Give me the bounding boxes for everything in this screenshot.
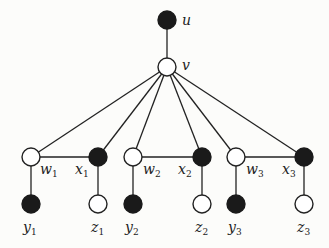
- node-z3: [295, 195, 313, 213]
- label-z1: z1: [90, 219, 104, 237]
- label-sub-w1: 1: [52, 169, 58, 179]
- label-sub-z2: 2: [202, 227, 208, 237]
- node-w2: [124, 148, 142, 166]
- edge-v-w3: [167, 67, 236, 157]
- node-y1: [22, 195, 40, 213]
- label-sub-x2: 2: [186, 169, 192, 179]
- node-x3: [295, 148, 313, 166]
- node-y3: [227, 195, 245, 213]
- label-x3: x3: [282, 161, 296, 179]
- label-x2: x2: [178, 161, 192, 179]
- label-w3: w3: [246, 161, 264, 179]
- node-u: [158, 11, 176, 29]
- label-w2: w2: [143, 161, 161, 179]
- label-sub-y3: 3: [236, 227, 242, 237]
- labels: uvw1x1w2x2w3x3y1z1y2z2y3z3: [22, 12, 310, 237]
- node-w1: [22, 148, 40, 166]
- node-x2: [193, 148, 211, 166]
- label-y3: y3: [227, 219, 242, 237]
- label-sub-z1: 1: [98, 227, 104, 237]
- label-sub-x3: 3: [290, 169, 296, 179]
- label-u: u: [182, 12, 191, 28]
- label-z3: z3: [296, 219, 310, 237]
- edge-v-x3: [167, 67, 304, 157]
- edge-v-x2: [167, 67, 202, 157]
- label-sub-z3: 3: [304, 227, 310, 237]
- label-w1: w1: [40, 161, 58, 179]
- graph-diagram: uvw1x1w2x2w3x3y1z1y2z2y3z3: [0, 0, 329, 248]
- label-sub-y1: 1: [31, 227, 37, 237]
- node-v: [158, 58, 176, 76]
- edge-v-x1: [98, 67, 167, 157]
- label-y1: y1: [22, 219, 37, 237]
- node-z1: [89, 195, 107, 213]
- label-z2: z2: [194, 219, 208, 237]
- label-y2: y2: [124, 219, 139, 237]
- label-x1: x1: [75, 161, 89, 179]
- label-sub-y2: 2: [133, 227, 139, 237]
- node-z2: [193, 195, 211, 213]
- label-sub-w3: 3: [258, 169, 264, 179]
- label-sub-x1: 1: [83, 169, 89, 179]
- edge-v-w2: [133, 67, 167, 157]
- label-sub-w2: 2: [155, 169, 161, 179]
- node-y2: [124, 195, 142, 213]
- node-w3: [227, 148, 245, 166]
- edge-v-w1: [31, 67, 167, 157]
- node-x1: [89, 148, 107, 166]
- label-v: v: [182, 57, 190, 73]
